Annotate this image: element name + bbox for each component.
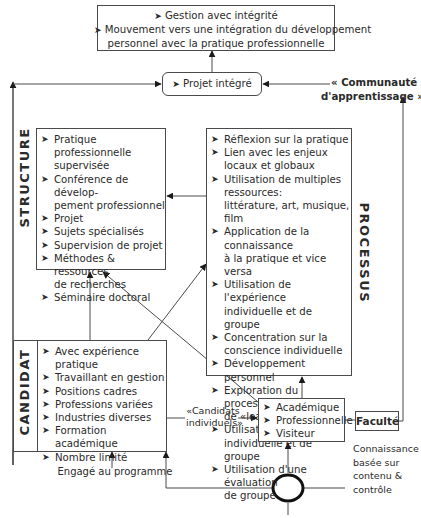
candidat-list: ➤Avec expérience pratique ➤Travaillant e…	[42, 345, 166, 464]
candidat-label: CANDIDAT	[17, 356, 32, 436]
structure-item-text: Conférence de dévelop-	[54, 173, 165, 199]
goal-item: ➤ Mouvement vers une intégration du déve…	[94, 23, 334, 37]
processus-item: ➤Utilisation d'une évaluationde groupe	[211, 463, 351, 503]
structure-item-text: Sujets spécialisés	[54, 225, 165, 238]
bullet-arrow-icon: ➤	[211, 173, 219, 186]
goal-text-cont: personnel avec la pratique professionnel…	[98, 37, 334, 50]
candidat-item-text: Travaillant en gestion	[55, 372, 164, 383]
participants-box: ➤Académique ➤Professionnelle ➤Visiteur	[258, 398, 345, 442]
candidat-item-text: Nombre limité	[55, 452, 127, 463]
participants-list: ➤Académique ➤Professionnelle ➤Visiteur	[263, 401, 344, 441]
bullet-arrow-icon: ➤	[211, 146, 219, 159]
bullet-arrow-icon: ➤	[211, 384, 219, 397]
bullet-arrow-icon: ➤	[42, 398, 50, 411]
bullet-arrow-icon: ➤	[94, 25, 102, 35]
participant-item: ➤Académique	[263, 401, 344, 414]
processus-item: ➤Concentration sur laconscience individu…	[211, 331, 351, 357]
communaute-label: « Communauté d'apprentissage »	[331, 76, 421, 104]
candidat-item: ➤Avec expérience pratique	[42, 345, 166, 371]
structure-item-text: de recherches	[54, 278, 165, 291]
note-line: basée sur	[353, 456, 421, 470]
processus-item: ➤Utilisation de l'expérienceindividuelle…	[211, 278, 351, 331]
candidat-item: ➤Formation académique	[42, 424, 166, 450]
structure-item-text: pement professionnel	[54, 199, 165, 212]
processus-list: ➤Réflexion sur la pratique➤Lien avec les…	[211, 133, 351, 503]
candidat-item-text: Professions variées	[55, 399, 153, 410]
bullet-arrow-icon: ➤	[42, 451, 50, 464]
participant-text: Professionnelle	[276, 415, 353, 426]
faculte-label: Faculté	[356, 415, 399, 427]
structure-item-text: Méthodes & ressources	[54, 252, 165, 278]
structure-item-text: Pratique professionnelle	[54, 133, 165, 159]
bullet-arrow-icon: ➤	[41, 225, 49, 238]
processus-item-text: à la pratique et vice versa	[224, 252, 351, 278]
processus-item-text: Utilisation d'une évaluation	[224, 463, 351, 489]
bullet-arrow-icon: ➤	[263, 414, 271, 427]
candidats-individuels-label: «Candidats individuels»	[186, 405, 240, 429]
bullet-arrow-icon: ➤	[42, 411, 50, 424]
participant-text: Visiteur	[276, 428, 315, 439]
goal-box: ➤ Gestion avec intégrité ➤ Mouvement ver…	[97, 5, 335, 51]
processus-item-text: Utilisation de l'expérience	[224, 278, 351, 304]
processus-item: ➤Développement personnel	[211, 357, 351, 383]
goal-item: ➤ Gestion avec intégrité	[98, 9, 334, 23]
processus-item-text: individuelle et de groupe	[224, 305, 351, 331]
label-line: «Candidats	[186, 405, 240, 417]
note-line: contenu &	[353, 469, 421, 483]
candidat-box: ➤Avec expérience pratique ➤Travaillant e…	[37, 340, 167, 452]
structure-label: STRUCTURE	[17, 148, 32, 228]
candidat-item-text: Industries diverses	[55, 412, 151, 423]
communaute-line: « Communauté	[331, 76, 405, 90]
processus-item: ➤Application de la connaissanceà la prat…	[211, 225, 351, 278]
label-line: individuels»	[186, 417, 240, 429]
processus-item-text: de groupe	[224, 489, 351, 502]
structure-item-text: Supervision de projet	[54, 239, 165, 252]
bullet-arrow-icon: ➤	[211, 278, 219, 291]
structure-box: ➤Pratique professionnellesupervisée➤Conf…	[36, 128, 166, 270]
goal-text: Gestion avec intégrité	[165, 10, 278, 21]
processus-box: ➤Réflexion sur la pratique➤Lien avec les…	[206, 128, 352, 376]
bullet-arrow-icon: ➤	[41, 291, 49, 304]
bullet-arrow-icon: ➤	[263, 401, 271, 414]
processus-item-text: Développement personnel	[224, 357, 351, 383]
processus-item: ➤Lien avec les enjeuxlocaux et globaux	[211, 146, 351, 172]
participant-item: ➤Professionnelle	[263, 414, 344, 427]
processus-item-text: littérature, art, musique, film	[224, 199, 351, 225]
goal-text: Mouvement vers une intégration du dévelo…	[105, 24, 371, 35]
processus-item-text: Lien avec les enjeux	[224, 146, 351, 159]
processus-item-text: Application de la connaissance	[224, 225, 351, 251]
structure-item: ➤Projet	[41, 212, 165, 225]
bullet-arrow-icon: ➤	[211, 133, 219, 146]
projet-label: Projet intégré	[183, 78, 252, 89]
bullet-arrow-icon: ➤	[211, 225, 219, 238]
bullet-arrow-icon: ➤	[211, 357, 219, 370]
participant-item: ➤Visiteur	[263, 427, 344, 440]
connaissance-note: Connaissance basée sur contenu & contrôl…	[353, 442, 421, 496]
candidat-item-text: Avec expérience pratique	[55, 346, 139, 370]
note-line: contrôle	[353, 483, 421, 497]
bullet-arrow-icon: ➤	[41, 252, 49, 265]
processus-item-text: Concentration sur la	[224, 331, 351, 344]
candidat-item: ➤Nombre limité	[42, 451, 166, 464]
candidat-item-text: Formation académique	[55, 425, 118, 449]
bullet-arrow-icon: ➤	[263, 427, 271, 440]
processus-item-text: Utilisation de multiples ressources:	[224, 173, 351, 199]
bullet-arrow-icon: ➤	[41, 212, 49, 225]
communaute-line: d'apprentissage »	[321, 90, 405, 104]
bullet-arrow-icon: ➤	[42, 385, 50, 398]
processus-label: PROCESSUS	[357, 203, 372, 283]
projet-integre-box: ➤ Projet intégré	[162, 72, 262, 96]
bullet-arrow-icon: ➤	[42, 424, 50, 437]
candidat-item: ➤Positions cadres	[42, 385, 166, 398]
bullet-arrow-icon: ➤	[211, 331, 219, 344]
participant-text: Académique	[276, 402, 339, 413]
bullet-arrow-icon: ➤	[41, 239, 49, 252]
processus-item: ➤Réflexion sur la pratique	[211, 133, 351, 146]
structure-list: ➤Pratique professionnellesupervisée➤Conf…	[41, 133, 165, 305]
bullet-arrow-icon: ➤	[42, 371, 50, 384]
structure-item: ➤Sujets spécialisés	[41, 225, 165, 238]
structure-item: ➤Supervision de projet	[41, 239, 165, 252]
bullet-arrow-icon: ➤	[41, 133, 49, 146]
structure-item-text: Séminaire doctoral	[54, 291, 165, 304]
processus-item-text: Réflexion sur la pratique	[224, 133, 351, 146]
